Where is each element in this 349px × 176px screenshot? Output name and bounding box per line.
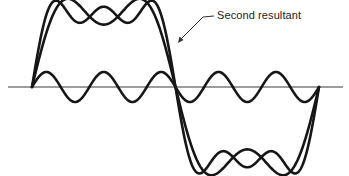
fourier-diagram xyxy=(0,0,349,176)
annotation-leader-line xyxy=(180,16,214,40)
second-resultant-label: Second resultant xyxy=(217,9,301,21)
